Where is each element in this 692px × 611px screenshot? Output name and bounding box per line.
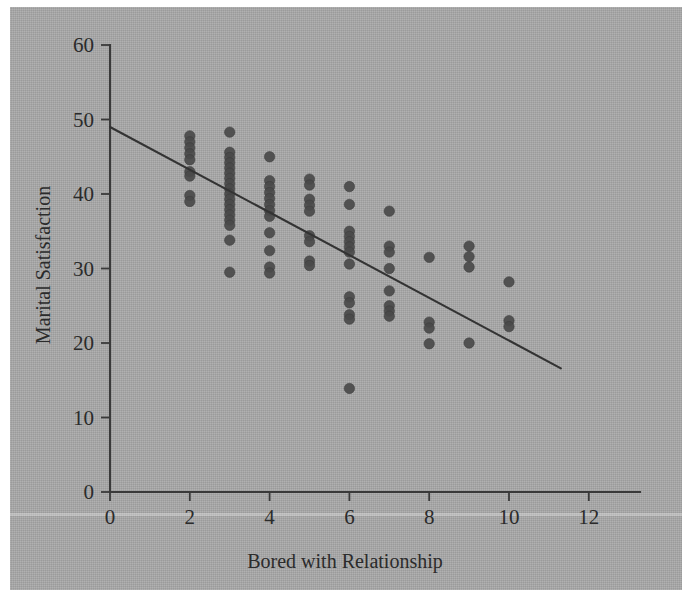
scatter-plot: 0102030405060 024681012 Bored with Relat… xyxy=(0,0,692,611)
data-point xyxy=(264,228,274,238)
data-point xyxy=(264,152,274,162)
data-point xyxy=(344,181,354,191)
data-point xyxy=(225,127,235,137)
figure-page: 0102030405060 024681012 Bored with Relat… xyxy=(0,0,692,611)
data-point xyxy=(344,199,354,209)
data-point xyxy=(344,259,354,269)
y-tick-label: 20 xyxy=(73,331,94,355)
x-tick-label: 12 xyxy=(578,505,599,529)
data-point xyxy=(304,206,314,216)
data-point xyxy=(504,321,514,331)
data-point xyxy=(464,251,474,261)
x-axis-tick-labels: 024681012 xyxy=(105,505,600,529)
x-tick-label: 2 xyxy=(185,505,196,529)
y-tick-label: 30 xyxy=(73,257,94,281)
y-axis-tick-marks xyxy=(101,45,110,492)
data-point xyxy=(304,180,314,190)
data-point xyxy=(384,206,394,216)
data-point xyxy=(464,262,474,272)
data-point xyxy=(264,268,274,278)
y-tick-label: 50 xyxy=(73,108,94,132)
x-tick-label: 4 xyxy=(264,505,275,529)
data-point xyxy=(384,311,394,321)
data-point xyxy=(384,263,394,273)
data-point xyxy=(424,252,434,262)
y-tick-label: 10 xyxy=(73,406,94,430)
x-tick-label: 10 xyxy=(499,505,520,529)
data-point xyxy=(225,267,235,277)
y-tick-label: 40 xyxy=(73,182,94,206)
data-point xyxy=(185,155,195,165)
data-point xyxy=(225,220,235,230)
y-axis-title: Marital Satisfaction xyxy=(32,186,54,344)
data-point xyxy=(225,235,235,245)
x-axis-title: Bored with Relationship xyxy=(247,550,443,573)
data-point-group xyxy=(185,127,515,394)
data-point xyxy=(384,286,394,296)
data-point xyxy=(464,338,474,348)
data-point xyxy=(464,241,474,251)
y-axis-tick-labels: 0102030405060 xyxy=(73,33,94,504)
regression-line xyxy=(110,127,561,368)
data-point xyxy=(344,298,354,308)
x-tick-label: 6 xyxy=(344,505,355,529)
x-tick-label: 8 xyxy=(424,505,435,529)
data-point xyxy=(424,339,434,349)
y-tick-label: 60 xyxy=(73,33,94,57)
data-point xyxy=(504,277,514,287)
data-point xyxy=(384,247,394,257)
x-axis-tick-marks xyxy=(110,492,589,501)
y-tick-label: 0 xyxy=(84,480,95,504)
data-point xyxy=(185,196,195,206)
data-point xyxy=(264,245,274,255)
data-point xyxy=(344,314,354,324)
data-point xyxy=(424,323,434,333)
data-point xyxy=(304,236,314,246)
x-tick-label: 0 xyxy=(105,505,116,529)
data-point xyxy=(344,383,354,393)
data-point xyxy=(304,260,314,270)
